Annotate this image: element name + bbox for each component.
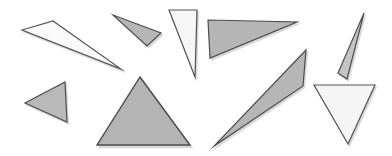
triangles-canvas: Thin elongated triangle pointing right-d… [0, 0, 392, 156]
shapes-svg-root: Thin elongated triangle pointing right-d… [0, 0, 392, 156]
